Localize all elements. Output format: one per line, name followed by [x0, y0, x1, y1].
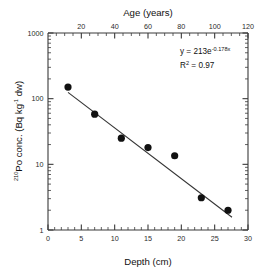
y-tick-label: 1: [40, 226, 44, 235]
secondary-x-tick-label: 20: [77, 22, 85, 31]
x-tick-label: 5: [79, 234, 83, 243]
fit-r-squared: R2 = 0.97: [180, 60, 215, 70]
figure-container: 1101001000 051015202530 20406080100120 D…: [0, 0, 272, 273]
exponential-fit-line: [68, 92, 232, 217]
fit-equation-exponent: -0.178x: [212, 46, 231, 52]
data-point: [91, 111, 98, 118]
x-axis-ticks: [48, 225, 248, 231]
y-axis-title-main: Po conc. (Bq kg: [13, 104, 24, 172]
data-point-series: [64, 84, 231, 214]
data-point: [118, 135, 125, 142]
y-axis-title-tail: dw): [13, 81, 24, 99]
y-axis-ticks: [48, 33, 248, 230]
y-axis-title: 210Po conc. (Bq kg-1 dw): [13, 81, 24, 181]
x-tick-label: 0: [46, 234, 50, 243]
semilog-scatter-chart: 1101001000 051015202530 20406080100120 D…: [0, 0, 272, 273]
y-tick-label: 10: [36, 160, 44, 169]
x-tick-label: 15: [144, 234, 152, 243]
data-point: [144, 144, 151, 151]
secondary-x-tick-label: 120: [242, 22, 254, 31]
secondary-x-tick-label: 60: [144, 22, 152, 31]
y-axis-title-isotope: 210: [13, 172, 19, 181]
secondary-x-tick-label: 100: [209, 22, 221, 31]
y-tick-label: 1000: [28, 29, 44, 38]
x-tick-label: 10: [111, 234, 119, 243]
x-tick-label: 30: [244, 234, 252, 243]
secondary-x-tick-label: 40: [111, 22, 119, 31]
x-tick-label: 20: [177, 234, 185, 243]
data-point: [171, 152, 178, 159]
data-point: [198, 194, 205, 201]
fit-equation-prefix: y = 213e: [180, 47, 212, 56]
plot-frame: [48, 33, 248, 230]
secondary-x-tick-label: 80: [177, 22, 185, 31]
data-point: [64, 84, 71, 91]
x-axis-tick-labels: 051015202530: [46, 234, 252, 243]
fit-r-squared-value: = 0.97: [189, 61, 215, 70]
x-tick-label: 25: [211, 234, 219, 243]
secondary-x-axis-tick-labels: 20406080100120: [77, 22, 254, 31]
secondary-x-axis-title: Age (years): [123, 7, 173, 18]
secondary-x-axis-ticks: [56, 33, 248, 39]
x-axis-title: Depth (cm): [124, 256, 171, 267]
fit-equation: y = 213e-0.178x: [180, 46, 231, 56]
svg-text:210Po conc. (Bq kg-1 dw): 210Po conc. (Bq kg-1 dw): [13, 81, 24, 181]
data-point: [224, 207, 231, 214]
fit-annotation: y = 213e-0.178x R2 = 0.97: [180, 46, 231, 70]
y-tick-label: 100: [32, 94, 44, 103]
y-axis-tick-labels: 1101001000: [28, 29, 44, 235]
